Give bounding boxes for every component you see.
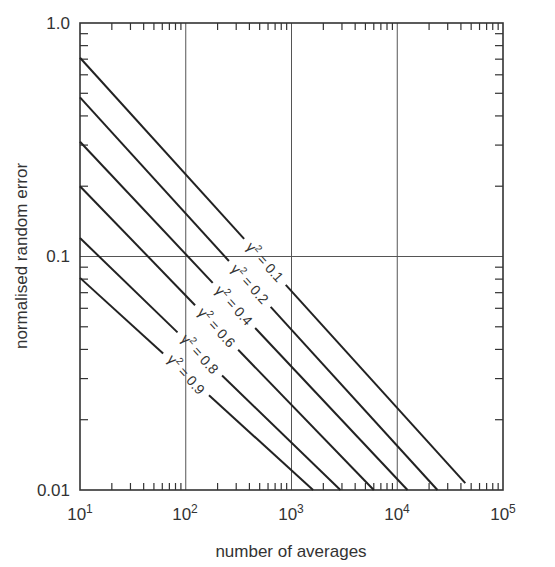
y-tick-label-1: 1.0	[46, 14, 70, 33]
curve-segment	[80, 238, 178, 332]
curve-segment	[80, 97, 229, 261]
grid-lines	[80, 23, 503, 490]
curve-segment	[209, 395, 313, 490]
x-tick-label-10-2: 102	[172, 502, 198, 524]
curve-segment	[255, 328, 407, 490]
x-tick-label-10-1: 101	[67, 502, 93, 524]
curve-segment	[222, 375, 340, 490]
y-axis-title: normalised random error	[12, 163, 31, 349]
y-tick-label-0.01: 0.01	[37, 481, 70, 500]
log-log-chart: γ2 = 0.1γ2 = 0.2γ2 = 0.4γ2 = 0.6γ2 = 0.8…	[0, 0, 555, 567]
x-tick-label-10-5: 105	[490, 502, 516, 524]
curve-segment	[286, 285, 466, 483]
curve-labels: γ2 = 0.1γ2 = 0.2γ2 = 0.4γ2 = 0.6γ2 = 0.8…	[164, 237, 289, 397]
curve-segment	[238, 350, 374, 490]
curve-segment	[80, 142, 213, 283]
x-tick-label-10-3: 103	[278, 502, 304, 524]
curve-segment	[80, 278, 163, 354]
y-tick-label-0.1: 0.1	[46, 247, 70, 266]
x-axis-title: number of averages	[215, 542, 366, 561]
x-tick-labels: 101 102 103 104 105	[67, 502, 516, 524]
curve-segment	[271, 307, 438, 490]
x-tick-label-10-4: 104	[384, 502, 410, 524]
